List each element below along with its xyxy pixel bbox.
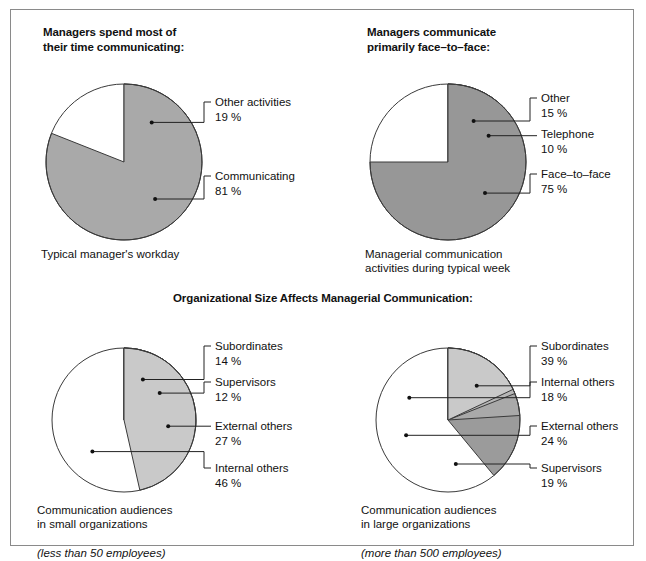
pie-callout: Internal others18 % bbox=[407, 376, 614, 403]
pie-label-value: 12 % bbox=[215, 391, 241, 403]
pie-label-name: Other bbox=[541, 92, 570, 104]
pie-slice[interactable] bbox=[124, 348, 196, 430]
pie-outline bbox=[46, 84, 202, 240]
leader-dot bbox=[454, 462, 458, 466]
panel-managers-time: Managers spend most of their time commun… bbox=[43, 25, 303, 55]
leader-line bbox=[92, 452, 211, 468]
leader-line bbox=[409, 382, 537, 398]
pie-label-name: Face–to–face bbox=[541, 168, 611, 180]
section-heading: Organizational Size Affects Managerial C… bbox=[173, 292, 473, 304]
pie-label-name: Other activities bbox=[215, 96, 291, 108]
pie-label-value: 75 % bbox=[541, 183, 567, 195]
pie-slice[interactable] bbox=[448, 348, 515, 420]
pie-slice[interactable] bbox=[448, 84, 511, 162]
pie-slice[interactable] bbox=[448, 84, 494, 162]
pie-label-value: 24 % bbox=[541, 435, 567, 447]
caption-italic-large-organizations: (more than 500 employees) bbox=[361, 547, 502, 559]
leader-dot bbox=[404, 433, 408, 437]
leader-line bbox=[477, 346, 537, 386]
pie-callout: Internal others46 % bbox=[90, 450, 288, 489]
leader-dot bbox=[166, 424, 170, 428]
pie-outline bbox=[370, 84, 526, 240]
pie-label-name: External others bbox=[541, 420, 619, 432]
caption-small-organizations: Communication audiences in small organiz… bbox=[37, 488, 173, 561]
leader-dot bbox=[141, 378, 145, 382]
pie-outline bbox=[376, 348, 520, 492]
pie-callout: Other activities19 % bbox=[150, 96, 292, 124]
leader-line bbox=[474, 98, 537, 121]
pie-chart-small-organizations[interactable]: Subordinates14 %Supervisors12 %External … bbox=[52, 340, 293, 492]
pie-chart-managers-time[interactable]: Other activities19 %Communicating81 % bbox=[46, 84, 295, 240]
pie-label-value: 10 % bbox=[541, 143, 567, 155]
pie-label-value: 81 % bbox=[215, 185, 241, 197]
pie-label-name: Internal others bbox=[541, 376, 615, 388]
pie-callout: External others27 % bbox=[166, 420, 292, 447]
caption-face-to-face: Managerial communication activities duri… bbox=[365, 232, 510, 276]
pie-slice[interactable] bbox=[46, 84, 202, 240]
pie-label-name: External others bbox=[215, 420, 293, 432]
pie-slice[interactable] bbox=[448, 348, 520, 420]
pie-slice[interactable] bbox=[124, 348, 180, 420]
pie-label-value: 19 % bbox=[215, 111, 241, 123]
leader-dot bbox=[475, 384, 479, 388]
leader-line bbox=[456, 464, 537, 468]
leader-dot bbox=[407, 396, 411, 400]
panel-face-to-face: Managers communicate primarily face–to–f… bbox=[367, 25, 627, 55]
pie-callout: Subordinates39 % bbox=[475, 340, 609, 388]
pie-label-name: Supervisors bbox=[215, 376, 276, 388]
pie-callout: Telephone10 % bbox=[487, 128, 594, 155]
pie-label-name: Subordinates bbox=[215, 340, 283, 352]
pie-label-value: 15 % bbox=[541, 107, 567, 119]
pie-chart-large-organizations[interactable]: Subordinates39 %Internal others18 %Exter… bbox=[376, 340, 619, 492]
leader-line bbox=[155, 176, 211, 199]
pie-label-name: Communicating bbox=[215, 170, 295, 182]
leader-dot bbox=[150, 120, 154, 124]
caption-large-organizations: Communication audiences in large organiz… bbox=[361, 488, 502, 561]
pie-label-value: 14 % bbox=[215, 355, 241, 367]
panel-title-managers-time: Managers spend most of their time commun… bbox=[43, 25, 303, 55]
leader-line bbox=[160, 382, 211, 393]
pie-outline bbox=[52, 348, 196, 492]
pie-label-value: 46 % bbox=[215, 477, 241, 489]
figure-frame: Managers spend most of their time commun… bbox=[10, 9, 634, 546]
leader-dot bbox=[472, 119, 476, 123]
pie-callout: Supervisors19 % bbox=[454, 462, 602, 489]
leader-dot bbox=[487, 134, 491, 138]
caption-italic-small-organizations: (less than 50 employees) bbox=[37, 547, 165, 559]
pie-callout: Other15 % bbox=[472, 92, 570, 123]
leader-dot bbox=[153, 197, 157, 201]
leader-line bbox=[406, 426, 537, 435]
pie-slice[interactable] bbox=[124, 348, 196, 490]
pie-callout: Face–to–face75 % bbox=[483, 168, 611, 195]
pie-slice[interactable] bbox=[124, 348, 174, 420]
pie-slice[interactable] bbox=[448, 348, 513, 420]
pie-callout: Supervisors12 % bbox=[158, 376, 276, 403]
leader-line bbox=[152, 102, 211, 122]
pie-label-value: 19 % bbox=[541, 477, 567, 489]
caption-text-large-organizations: Communication audiences in large organiz… bbox=[361, 504, 497, 531]
caption-managers-time: Typical manager's workday bbox=[41, 232, 179, 261]
pie-slice[interactable] bbox=[124, 84, 197, 162]
pie-label-value: 27 % bbox=[215, 435, 241, 447]
panel-title-face-to-face: Managers communicate primarily face–to–f… bbox=[367, 25, 627, 55]
pie-label-value: 39 % bbox=[541, 355, 567, 367]
leader-line bbox=[143, 346, 211, 380]
pie-label-value: 18 % bbox=[541, 391, 567, 403]
pie-label-name: Internal others bbox=[215, 462, 289, 474]
pie-callout: Communicating81 % bbox=[153, 170, 295, 201]
pie-label-name: Telephone bbox=[541, 128, 594, 140]
leader-dot bbox=[483, 191, 487, 195]
pie-label-name: Subordinates bbox=[541, 340, 609, 352]
caption-text-face-to-face: Managerial communication activities duri… bbox=[365, 248, 510, 275]
pie-label-name: Supervisors bbox=[541, 462, 602, 474]
leader-dot bbox=[90, 450, 94, 454]
caption-text-managers-time: Typical manager's workday bbox=[41, 248, 179, 260]
pie-callout: External others24 % bbox=[404, 420, 618, 447]
leader-line bbox=[485, 174, 537, 193]
leader-dot bbox=[158, 391, 162, 395]
caption-text-small-organizations: Communication audiences in small organiz… bbox=[37, 504, 173, 531]
pie-slice[interactable] bbox=[448, 348, 520, 475]
pie-slice[interactable] bbox=[370, 84, 526, 240]
pie-callout: Subordinates14 % bbox=[141, 340, 283, 382]
pie-chart-face-to-face[interactable]: Other15 %Telephone10 %Face–to–face75 % bbox=[370, 84, 611, 240]
